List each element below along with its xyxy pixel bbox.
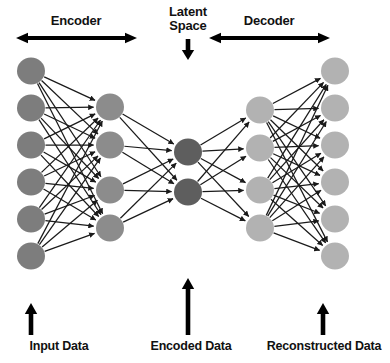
diagram-canvas <box>0 0 390 363</box>
neuron-node-encoder_hidden <box>96 132 124 159</box>
neuron-node-output <box>321 95 349 122</box>
network-edge <box>45 233 95 251</box>
neuron-node-output <box>321 169 349 196</box>
latent-down-arrow <box>182 39 194 60</box>
neuron-node-encoder_hidden <box>96 94 124 121</box>
neuron-node-output <box>321 132 349 159</box>
neuron-node-latent <box>174 179 202 206</box>
neuron-node-output <box>321 58 349 85</box>
encoder-span-arrow <box>16 33 137 43</box>
reconstructed-data-up-arrow <box>317 303 329 335</box>
neuron-node-input <box>17 169 45 196</box>
network-edge <box>38 121 103 244</box>
neuron-node-decoder_hidden <box>246 97 274 124</box>
encoder-label: Encoder <box>0 14 152 28</box>
network-edge <box>270 157 324 218</box>
reconstructed-data-label: Reconstructed Data <box>258 340 390 353</box>
network-edge <box>201 118 246 145</box>
neuron-node-latent <box>174 139 202 166</box>
network-edge <box>44 77 95 101</box>
network-edge <box>123 199 173 222</box>
neuron-node-output <box>321 206 349 233</box>
neuron-node-input <box>17 206 45 233</box>
network-edge <box>202 190 243 191</box>
network-edge <box>274 108 318 109</box>
neuron-node-input <box>17 58 45 85</box>
network-edge <box>46 107 94 108</box>
autoencoder-diagram: Encoder Latent Space Decoder Input Data … <box>0 0 390 363</box>
neuron-node-input <box>17 95 45 122</box>
decoder-span-arrow <box>209 33 330 43</box>
network-edge <box>202 149 243 151</box>
network-edge <box>201 198 245 221</box>
network-edge <box>42 200 97 247</box>
neuron-node-input <box>17 132 45 159</box>
input-data-label: Input Data <box>0 340 118 353</box>
encoded-data-label: Encoded Data <box>128 340 254 353</box>
network-edge <box>273 78 321 103</box>
neuron-node-decoder_hidden <box>246 135 274 162</box>
input-data-up-arrow <box>25 303 37 335</box>
neuron-node-decoder_hidden <box>246 215 274 242</box>
decoder-label: Decoder <box>206 14 332 28</box>
neuron-node-input <box>17 243 45 270</box>
network-edge <box>274 233 320 251</box>
neuron-node-output <box>321 243 349 270</box>
network-edge <box>39 158 100 245</box>
neuron-node-decoder_hidden <box>246 177 274 204</box>
network-edge <box>271 199 323 245</box>
encoded-data-up-arrow <box>182 278 194 335</box>
neuron-node-encoder_hidden <box>96 177 124 204</box>
network-edge <box>124 146 171 150</box>
network-edge <box>123 159 173 184</box>
neuron-node-encoder_hidden <box>96 215 124 242</box>
